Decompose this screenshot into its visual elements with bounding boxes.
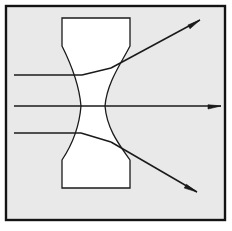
ray-diagram-canvas [0, 0, 232, 231]
ray-diagram-figure [0, 0, 232, 231]
